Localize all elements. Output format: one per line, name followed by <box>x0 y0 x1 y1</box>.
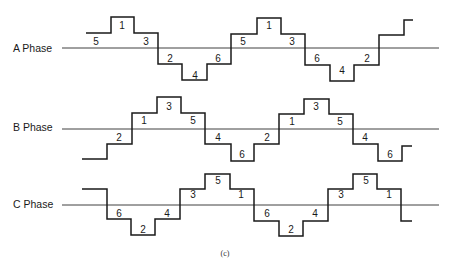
phase-b-step-label: 1 <box>141 115 147 126</box>
phase-b-step-label: 1 <box>289 116 295 127</box>
phase-b-step-label: 4 <box>215 132 221 143</box>
phase-a-step-label: 1 <box>266 20 272 31</box>
three-phase-waveform-diagram: A Phase513246513642 B Phase213546213546 … <box>0 0 449 269</box>
phase-b-label: B Phase <box>13 121 53 133</box>
phase-a-step-label: 3 <box>289 36 295 47</box>
phase-a-step-label: 4 <box>192 70 198 81</box>
phase-c-waveform-group: C Phase624351624351 <box>13 174 439 236</box>
figure-caption: (c) <box>221 249 230 258</box>
phase-a-step-label: 5 <box>93 36 99 47</box>
phase-b-step-label: 3 <box>166 101 172 112</box>
phase-c-step-label: 3 <box>190 189 196 200</box>
phase-c-step-label: 4 <box>164 208 170 219</box>
phase-c-step-label: 6 <box>264 208 270 219</box>
phase-c-step-label: 5 <box>215 175 221 186</box>
phase-c-step-label: 1 <box>238 189 244 200</box>
phase-c-step-label: 3 <box>338 189 344 200</box>
phase-b-step-label: 5 <box>190 115 196 126</box>
phase-a-step-label: 6 <box>314 53 320 64</box>
phase-a-step-label: 2 <box>167 53 173 64</box>
phase-b-step-label: 2 <box>264 132 270 143</box>
phase-a-waveform-group: A Phase513246513642 <box>13 17 439 81</box>
phase-b-step-label: 3 <box>313 101 319 112</box>
phase-c-label: C Phase <box>13 198 53 210</box>
phase-b-step-label: 6 <box>239 149 245 160</box>
phase-a-step-label: 2 <box>364 53 370 64</box>
phase-b-step-label: 2 <box>116 132 122 143</box>
phase-a-step-label: 5 <box>240 36 246 47</box>
phase-c-step-label: 5 <box>363 175 369 186</box>
phase-a-label: A Phase <box>13 42 52 54</box>
phase-a-step-label: 4 <box>339 65 345 76</box>
phase-c-step-label: 1 <box>386 189 392 200</box>
phase-b-waveform-group: B Phase213546213546 <box>13 97 439 161</box>
phase-a-step-label: 3 <box>143 36 149 47</box>
phase-b-step-label: 5 <box>337 116 343 127</box>
phase-b-step-label: 4 <box>362 132 368 143</box>
phase-a-step-label: 1 <box>119 20 125 31</box>
phase-c-step-label: 2 <box>288 224 294 235</box>
phase-c-step-label: 4 <box>312 208 318 219</box>
phase-a-step-label: 6 <box>215 53 221 64</box>
phase-c-step-label: 6 <box>116 208 122 219</box>
phase-a-stepped-waveform <box>86 17 413 81</box>
phase-c-step-label: 2 <box>140 224 146 235</box>
phase-b-step-label: 6 <box>387 149 393 160</box>
